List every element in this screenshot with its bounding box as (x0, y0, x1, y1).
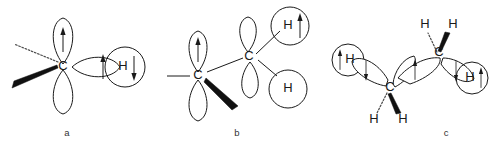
spin-arrow-hydrogen-outer-right (479, 67, 483, 88)
panel-b: C C H H b (167, 7, 309, 138)
atom-label-carbon-right: C (434, 44, 443, 59)
atom-label-hydrogen-outer-right: H (465, 69, 474, 84)
atom-label-hydrogen-bottom-right: H (398, 111, 407, 126)
panel-a: C H a (12, 18, 145, 138)
spin-arrow-hydrogen-right (131, 56, 136, 81)
panel-caption-a: a (64, 127, 70, 138)
atom-label-hydrogen-lower: H (283, 80, 292, 95)
bond-wedge-lower-left (12, 65, 58, 88)
panel-c: C C H H H H H H c (332, 16, 488, 137)
bond-wedge-left-carbon (204, 78, 238, 110)
left-outer-lobe (352, 58, 388, 86)
atom-label-hydrogen-bottom-left: H (369, 111, 378, 126)
spin-arrow-hydrogen-outer-left (338, 49, 342, 69)
atom-label-hydrogen-top-right: H (448, 16, 457, 31)
orbital-diagram-svg: C H a C C H H b (0, 0, 501, 148)
panel-caption-c: c (444, 127, 449, 138)
bond-line-to-hydrogen-upper (256, 31, 280, 54)
orbital-lobe-right (72, 57, 120, 77)
panel-caption-b: b (234, 127, 239, 138)
atom-label-carbon-left: C (385, 79, 394, 94)
bond-line-carbon-carbon (207, 58, 243, 72)
right-orbital-lobe-down (242, 62, 259, 98)
atom-label-hydrogen-right: H (118, 58, 127, 73)
bond-dashed-left-carbon (377, 93, 387, 113)
atom-label-carbon-left: C (193, 67, 202, 82)
atom-label-hydrogen-top-left: H (420, 16, 429, 31)
spin-arrow-hydrogen-upper (297, 13, 302, 38)
atom-label-carbon-right: C (244, 48, 253, 63)
bond-dashed-upper-left (14, 44, 58, 62)
atom-label-hydrogen-upper: H (283, 17, 292, 32)
left-orbital-lobe-down (189, 80, 207, 121)
bond-line-to-hydrogen-lower (258, 60, 277, 76)
figure-root: C H a C C H H b (0, 0, 501, 148)
right-orbital-lobe-up (240, 17, 257, 52)
atom-label-hydrogen-outer-left: H (345, 51, 354, 66)
orbital-lobe-down (53, 70, 73, 114)
atom-label-carbon-center: C (58, 58, 67, 73)
